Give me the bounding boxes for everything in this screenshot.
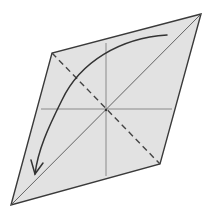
center-point [105, 109, 107, 111]
origami-diagram [0, 0, 216, 216]
